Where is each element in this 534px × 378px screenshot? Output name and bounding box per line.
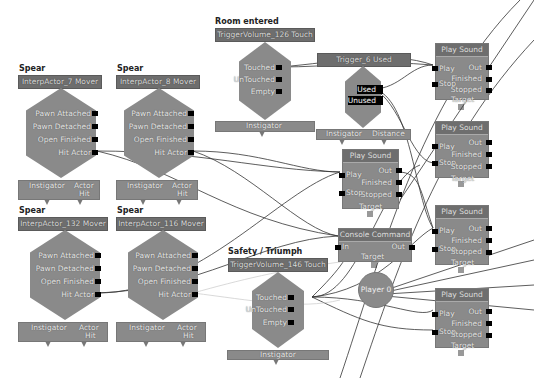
target-link-stub[interactable] bbox=[458, 267, 464, 273]
var-hit[interactable]: Hit bbox=[177, 189, 188, 198]
target-link-stub[interactable] bbox=[458, 350, 464, 356]
port-untouched[interactable]: UnTouched bbox=[246, 305, 294, 314]
link-arrow-icon[interactable] bbox=[176, 199, 182, 205]
var-instigator[interactable]: Instigator bbox=[127, 181, 163, 190]
node-title[interactable]: InterpActor_132 Mover bbox=[18, 217, 108, 231]
event-hexagon[interactable] bbox=[26, 88, 96, 178]
link-arrow-icon[interactable] bbox=[273, 359, 279, 365]
port-pawn-detached[interactable]: Pawn Detached bbox=[129, 122, 194, 131]
port-used[interactable]: Used bbox=[357, 85, 383, 94]
port-empty[interactable]: Empty bbox=[263, 318, 294, 327]
node-title[interactable]: InterpActor_8 Mover bbox=[116, 75, 200, 89]
port-hit-actor[interactable]: Hit Actor bbox=[154, 148, 194, 157]
target-link-stub[interactable] bbox=[371, 262, 377, 268]
port-touched[interactable]: Touched bbox=[244, 63, 282, 72]
var-distance[interactable]: Distance bbox=[372, 129, 405, 138]
port-pawn-attached[interactable]: Pawn Attached bbox=[35, 109, 98, 118]
output-out-connector[interactable] bbox=[486, 140, 492, 145]
port-hit-actor[interactable]: Hit Actor bbox=[61, 290, 101, 299]
output-stopped-connector[interactable] bbox=[486, 250, 492, 255]
output-finished[interactable]: Finished bbox=[361, 178, 392, 187]
output-finished-connector[interactable] bbox=[396, 180, 402, 185]
input-stop-connector[interactable] bbox=[432, 247, 438, 252]
var-target[interactable]: Target bbox=[451, 174, 474, 183]
port-open-finished[interactable]: Open Finished bbox=[38, 135, 98, 144]
output-finished[interactable]: Finished bbox=[451, 236, 482, 245]
link-arrow-icon[interactable] bbox=[81, 341, 87, 347]
output-out[interactable]: Out bbox=[468, 307, 482, 316]
port-touched[interactable]: Touched bbox=[256, 293, 294, 302]
output-stopped[interactable]: Stopped bbox=[451, 85, 482, 94]
node-title[interactable]: Play Sound bbox=[436, 206, 488, 219]
link-arrow-icon[interactable] bbox=[180, 341, 186, 347]
node-title[interactable]: Play Sound bbox=[436, 289, 488, 302]
link-arrow-icon[interactable] bbox=[339, 139, 345, 145]
var-instigator[interactable]: Instigator bbox=[260, 350, 296, 359]
output-finished[interactable]: Finished bbox=[451, 319, 482, 328]
input-stop-connector[interactable] bbox=[339, 191, 345, 196]
player-variable-node[interactable]: Player 0 bbox=[358, 272, 394, 308]
event-hexagon[interactable] bbox=[30, 230, 100, 320]
play-sound-node-2[interactable]: Play Sound Play Stop Out Finished Stoppe… bbox=[435, 121, 489, 178]
node-title[interactable]: TriggerVolume_146 Touch bbox=[228, 258, 328, 272]
input-stop-connector[interactable] bbox=[432, 161, 438, 166]
port-open-finished[interactable]: Open Finished bbox=[138, 277, 198, 286]
output-stopped[interactable]: Stopped bbox=[361, 190, 392, 199]
port-unused[interactable]: Unused bbox=[348, 96, 383, 105]
var-instigator[interactable]: Instigator bbox=[29, 181, 65, 190]
output-out[interactable]: Out bbox=[468, 138, 482, 147]
input-in[interactable]: In bbox=[342, 242, 349, 251]
link-arrow-icon[interactable] bbox=[45, 341, 51, 347]
port-pawn-attached[interactable]: Pawn Attached bbox=[131, 109, 194, 118]
output-finished[interactable]: Finished bbox=[451, 150, 482, 159]
output-finished-connector[interactable] bbox=[486, 152, 492, 157]
output-out-connector[interactable] bbox=[396, 168, 402, 173]
var-instigator[interactable]: Instigator bbox=[129, 323, 165, 332]
var-target[interactable]: Target bbox=[359, 202, 382, 211]
node-title[interactable]: Play Sound bbox=[436, 122, 488, 135]
target-link-stub[interactable] bbox=[367, 211, 373, 217]
output-out[interactable]: Out bbox=[468, 224, 482, 233]
console-command-node[interactable]: Console Command In Out Target bbox=[338, 228, 412, 262]
port-empty[interactable]: Empty bbox=[251, 87, 282, 96]
var-hit[interactable]: Hit bbox=[79, 189, 90, 198]
var-instigator[interactable]: Instigator bbox=[326, 129, 362, 138]
input-play[interactable]: Play bbox=[439, 64, 455, 73]
event-hexagon[interactable] bbox=[128, 230, 198, 320]
output-out-connector[interactable] bbox=[486, 65, 492, 70]
input-play[interactable]: Play bbox=[439, 309, 455, 318]
output-stopped-connector[interactable] bbox=[486, 164, 492, 169]
port-pawn-attached[interactable]: Pawn Attached bbox=[135, 251, 198, 260]
output-out[interactable]: Out bbox=[468, 63, 482, 72]
link-arrow-icon[interactable] bbox=[259, 131, 265, 137]
output-stopped[interactable]: Stopped bbox=[451, 162, 482, 171]
input-play-connector[interactable] bbox=[339, 173, 345, 178]
input-in-connector[interactable] bbox=[335, 245, 341, 250]
input-play-connector[interactable] bbox=[432, 144, 438, 149]
target-link-stub[interactable] bbox=[458, 104, 464, 110]
event-hexagon[interactable] bbox=[124, 88, 194, 178]
input-play[interactable]: Play bbox=[439, 226, 455, 235]
link-arrow-icon[interactable] bbox=[140, 199, 146, 205]
port-hit-actor[interactable]: Hit Actor bbox=[158, 290, 198, 299]
input-play-connector[interactable] bbox=[432, 66, 438, 71]
link-arrow-icon[interactable] bbox=[44, 199, 50, 205]
output-stopped-connector[interactable] bbox=[486, 333, 492, 338]
output-out-connector[interactable] bbox=[486, 226, 492, 231]
play-sound-node-1[interactable]: Play Sound Play Stop Out Finished Stoppe… bbox=[435, 43, 489, 100]
var-target[interactable]: Target bbox=[451, 258, 474, 267]
play-sound-node-4[interactable]: Play Sound Play Stop Out Finished Stoppe… bbox=[435, 205, 489, 265]
port-hit-actor[interactable]: Hit Actor bbox=[58, 148, 98, 157]
node-title[interactable]: InterpActor_116 Mover bbox=[116, 217, 206, 231]
play-sound-node-5[interactable]: Play Sound Play Stop Out Finished Stoppe… bbox=[435, 288, 489, 348]
node-title[interactable]: TriggerVolume_126 Touch bbox=[215, 28, 315, 42]
input-stop-connector[interactable] bbox=[432, 330, 438, 335]
var-instigator[interactable]: Instigator bbox=[246, 121, 282, 130]
node-title[interactable]: Play Sound bbox=[436, 44, 488, 57]
port-pawn-attached[interactable]: Pawn Attached bbox=[38, 251, 101, 260]
link-arrow-icon[interactable] bbox=[381, 139, 387, 145]
output-finished-connector[interactable] bbox=[486, 238, 492, 243]
output-stopped-connector[interactable] bbox=[396, 192, 402, 197]
port-open-finished[interactable]: Open Finished bbox=[134, 135, 194, 144]
node-title[interactable]: Play Sound bbox=[343, 150, 398, 163]
